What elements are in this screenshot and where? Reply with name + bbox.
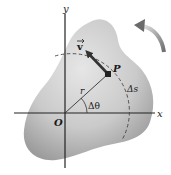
arc-length-label: Δs — [126, 84, 138, 94]
rotation-arrowhead-icon — [134, 19, 145, 32]
rotation-arrow-icon — [142, 26, 164, 52]
angle-label: Δθ — [88, 101, 100, 111]
y-axis-label: y — [62, 3, 69, 14]
diagram-canvas: y x O P v r Δθ Δs — [0, 0, 171, 175]
radius-label: r — [80, 86, 85, 96]
point-p-label: P — [112, 63, 121, 74]
rotation-diagram: y x O P v r Δθ Δs — [0, 0, 171, 175]
point-p-marker — [105, 71, 111, 77]
x-axis-label: x — [157, 108, 163, 119]
origin-label: O — [54, 117, 63, 128]
